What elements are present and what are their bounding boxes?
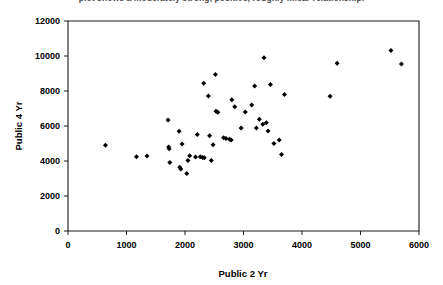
x-axis-ticks: 0100020003000400050006000	[65, 231, 429, 250]
y-axis-title: Public 4 Yr	[13, 101, 24, 150]
data-point	[209, 158, 214, 163]
y-axis-ticks: 020004000600080001000012000	[35, 16, 68, 236]
data-point	[193, 154, 198, 159]
data-point	[254, 126, 259, 131]
data-point	[201, 81, 206, 86]
data-point	[229, 97, 234, 102]
x-tick-label: 0	[65, 240, 70, 250]
plot-frame	[68, 21, 419, 231]
data-points-layer	[103, 48, 404, 176]
data-point	[166, 117, 171, 122]
data-point	[249, 103, 254, 108]
plot-canvas: Public 4 Yr Public 2 Yr 0200040006000800…	[0, 0, 443, 285]
data-point	[195, 132, 200, 137]
data-point	[239, 126, 244, 131]
scatter-plot-figure: plot shows a moderately strong, positive…	[0, 0, 443, 285]
data-point	[243, 110, 248, 115]
data-point	[279, 152, 284, 157]
data-point	[134, 154, 139, 159]
data-point	[282, 92, 287, 97]
data-point	[399, 61, 404, 66]
data-point	[180, 142, 185, 147]
data-point	[268, 82, 273, 87]
data-point	[177, 129, 182, 134]
x-tick-label: 3000	[233, 240, 253, 250]
data-point	[206, 93, 211, 98]
data-point	[277, 138, 282, 143]
y-tick-label: 4000	[40, 156, 60, 166]
y-tick-label: 8000	[40, 86, 60, 96]
data-point	[187, 153, 192, 158]
x-axis-title: Public 2 Yr	[219, 268, 268, 279]
x-tick-label: 1000	[116, 240, 136, 250]
data-point	[266, 128, 271, 133]
y-tick-label: 12000	[35, 16, 60, 26]
data-point	[232, 104, 237, 109]
data-point	[185, 158, 190, 163]
data-point	[144, 154, 149, 159]
x-tick-label: 4000	[292, 240, 312, 250]
data-point	[328, 94, 333, 99]
y-tick-label: 2000	[40, 191, 60, 201]
data-point	[271, 141, 276, 146]
data-point	[257, 117, 262, 122]
y-tick-label: 0	[55, 226, 60, 236]
data-point	[388, 48, 393, 53]
data-point	[335, 61, 340, 66]
data-point	[184, 171, 189, 176]
data-point	[207, 133, 212, 138]
x-tick-label: 2000	[175, 240, 195, 250]
x-tick-label: 6000	[409, 240, 429, 250]
data-point	[103, 143, 108, 148]
y-tick-label: 6000	[40, 121, 60, 131]
data-point	[213, 72, 218, 77]
x-tick-label: 5000	[350, 240, 370, 250]
y-tick-label: 10000	[35, 51, 60, 61]
data-point	[211, 142, 216, 147]
data-point	[261, 55, 266, 60]
data-point	[252, 84, 257, 89]
data-point	[167, 160, 172, 165]
